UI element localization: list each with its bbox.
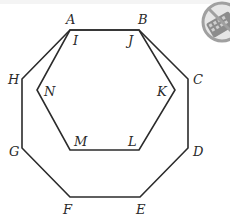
vertex-label-i: I	[72, 33, 79, 48]
vertex-label-b: B	[137, 12, 148, 27]
vertex-label-h: H	[7, 72, 20, 87]
vertex-label-j: J	[125, 33, 134, 48]
vertex-label-m: M	[73, 134, 88, 149]
vertex-label-g: G	[9, 144, 19, 159]
vertex-label-n: N	[43, 84, 56, 99]
geometry-diagram: ABCDEFGHIJKLMN	[0, 0, 230, 221]
vertex-label-l: L	[127, 134, 137, 149]
no-calculator-icon	[203, 3, 230, 41]
hexagon-shape	[37, 30, 175, 150]
vertex-label-d: D	[192, 144, 204, 159]
vertex-label-k: K	[156, 84, 168, 99]
vertex-label-f: F	[62, 202, 73, 217]
vertex-labels: ABCDEFGHIJKLMN	[7, 12, 204, 217]
vertex-label-c: C	[193, 72, 203, 87]
vertex-label-e: E	[135, 202, 146, 217]
octagon-shape	[22, 30, 188, 197]
vertex-label-a: A	[65, 12, 75, 27]
